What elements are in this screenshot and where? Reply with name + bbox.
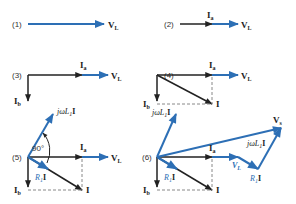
- panel-6-label: (6): [142, 153, 152, 162]
- panel-6: (6) Ia VL Ib I R1I R1I jωL1I jωL1I Vs: [142, 108, 283, 196]
- panel-3: (3) Ia VL Ib: [12, 60, 122, 107]
- jwl1i-label-shifted: jωL1I: [246, 139, 265, 149]
- i-vector: [157, 75, 212, 104]
- panel-5: (5) 90° Ia VL Ib I R1I jωL1I: [12, 107, 122, 196]
- ib-label: Ib: [14, 185, 22, 196]
- vl-label: VL: [241, 20, 252, 31]
- vs-label: Vs: [273, 115, 283, 126]
- r1i-vector: [28, 157, 48, 169]
- r1i-label: R1I: [34, 173, 46, 183]
- r1i-vector: [157, 157, 177, 169]
- jwl1i-label: jωL1I: [151, 108, 170, 118]
- panel-2-label: (2): [164, 20, 174, 29]
- vl-label: VL: [241, 71, 252, 82]
- ia-label: Ia: [209, 60, 216, 71]
- vl-label: VL: [111, 71, 122, 82]
- i-label: I: [216, 99, 220, 109]
- ia-label: Ia: [80, 60, 87, 71]
- ib-label: Ib: [14, 96, 22, 107]
- panel-1: (1) VL: [12, 20, 119, 31]
- panel-5-label: (5): [12, 153, 22, 162]
- vl-label: VL: [108, 20, 119, 31]
- panel-4: (4) Ia VL Ib I: [143, 60, 252, 110]
- vl-label: VL: [111, 153, 122, 164]
- ib-label: Ib: [143, 99, 151, 110]
- panel-3-label: (3): [12, 71, 22, 80]
- phasor-diagram: (1) VL (2) Ia VL (3) Ia VL Ib (4) Ia VL …: [0, 0, 296, 204]
- r1i-label: R1I: [163, 173, 175, 183]
- ia-label: Ia: [207, 10, 214, 21]
- panel-2: (2) Ia VL: [164, 10, 252, 31]
- ib-label: Ib: [143, 185, 151, 196]
- r1i-label-shifted: R1I: [249, 174, 261, 184]
- angle-label: 90°: [32, 144, 44, 153]
- ia-label: Ia: [209, 143, 216, 154]
- jwl1i-vector: [157, 114, 176, 157]
- ia-label: Ia: [80, 142, 87, 153]
- i-label: I: [216, 185, 220, 195]
- panel-1-label: (1): [12, 20, 22, 29]
- jwl1i-label: jωL1I: [56, 107, 75, 117]
- i-label: I: [86, 185, 90, 195]
- vl-label: VL: [232, 161, 241, 171]
